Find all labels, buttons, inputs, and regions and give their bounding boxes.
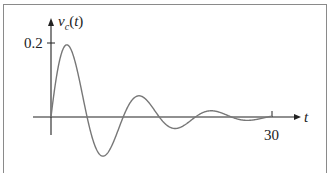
damped-oscillation-curve <box>51 45 272 156</box>
x-axis-label: t <box>304 110 308 125</box>
y-axis-label: vc(t) <box>58 14 83 32</box>
x-tick-label: 30 <box>264 128 279 143</box>
axes <box>33 18 301 135</box>
y-tick-label: 0.2 <box>24 36 43 51</box>
plot-area <box>0 0 336 173</box>
